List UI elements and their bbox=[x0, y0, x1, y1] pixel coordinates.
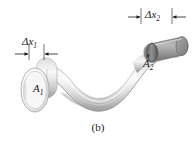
label-delta-x2: Δx2 bbox=[145, 9, 160, 23]
label-area-2: A2 bbox=[143, 58, 153, 72]
label-area-1: A1 bbox=[33, 83, 43, 97]
label-area-1-text: A bbox=[33, 82, 40, 94]
label-delta-x1-sub: 1 bbox=[33, 41, 37, 50]
label-delta-x2-text: Δx bbox=[145, 8, 156, 20]
flow-tube-figure: Δx1 Δx2 A1 A2 (b) bbox=[0, 0, 196, 143]
label-area-2-text: A bbox=[143, 57, 150, 69]
label-area-1-sub: 1 bbox=[40, 88, 44, 97]
label-delta-x1-text: Δx bbox=[22, 35, 33, 47]
label-delta-x1: Δx1 bbox=[22, 36, 37, 50]
label-delta-x2-sub: 2 bbox=[156, 14, 160, 23]
figure-caption: (b) bbox=[0, 121, 196, 133]
label-area-2-sub: 2 bbox=[150, 63, 154, 72]
